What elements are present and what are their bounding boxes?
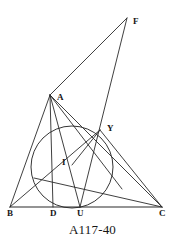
vertex-label-F: F [133,17,139,26]
vertex-label-C: C [159,209,166,218]
segment-YI-lower [72,130,100,165]
segment-FU [80,18,127,207]
segment-AD [50,95,53,207]
geometry-canvas [0,0,185,245]
vertex-label-U: U [77,209,84,218]
figure-caption: A117-40 [0,222,185,238]
vertex-label-B: B [7,209,13,218]
incircle [31,126,113,208]
vertex-label-Y: Y [107,124,114,133]
vertex-label-I: I [62,158,66,167]
geometry-figure: B D U C A F Y I A117-40 [0,0,185,245]
segment-AF [50,18,127,95]
vertex-label-A: A [57,93,64,102]
vertex-label-D: D [50,209,57,218]
